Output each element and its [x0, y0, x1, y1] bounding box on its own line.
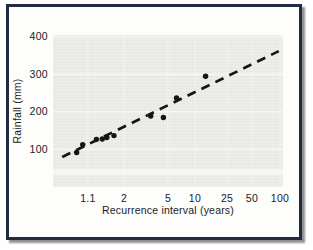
data-point — [148, 113, 153, 118]
figure-screenshot: 1002003004001.125102550100 Rainfall (mm)… — [0, 0, 313, 250]
data-point — [104, 135, 109, 140]
y-axis-title: Rainfall (mm) — [11, 78, 23, 143]
data-point — [161, 115, 166, 120]
data-point — [111, 133, 116, 138]
x-axis-title: Recurrence interval (years) — [68, 204, 268, 216]
data-point — [80, 142, 85, 147]
data-point — [203, 74, 208, 79]
data-point — [174, 95, 179, 100]
data-point — [100, 136, 105, 141]
data-point — [74, 150, 79, 155]
data-point — [94, 137, 99, 142]
